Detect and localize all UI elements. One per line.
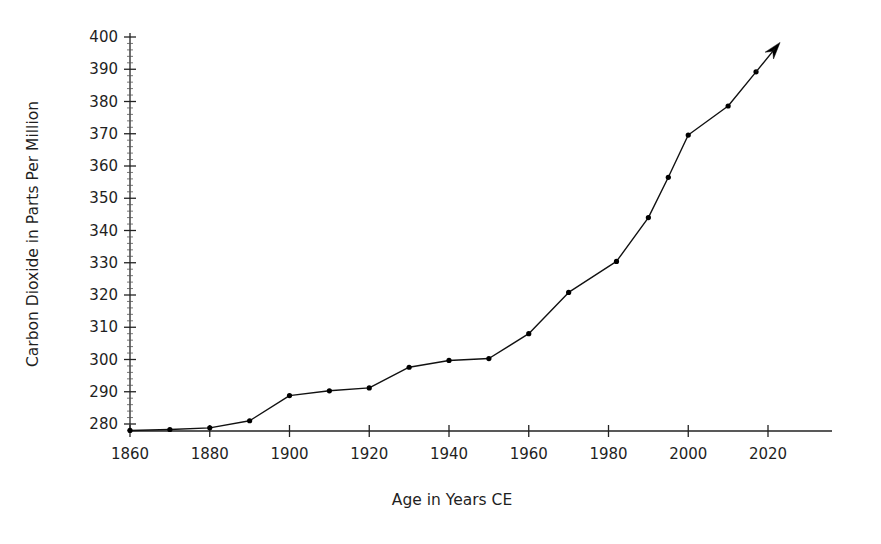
data-point	[646, 215, 651, 220]
x-tick-label-1980: 1980	[589, 445, 627, 463]
y-tick-label-280: 280	[89, 415, 118, 433]
x-tick-label-1940: 1940	[430, 445, 468, 463]
data-point	[566, 290, 571, 295]
y-tick-label-340: 340	[89, 222, 118, 240]
data-point	[726, 103, 731, 108]
y-tick-label-300: 300	[89, 351, 118, 369]
data-point	[327, 388, 332, 393]
y-tick-label-360: 360	[89, 157, 118, 175]
x-tick-label-2000: 2000	[669, 445, 707, 463]
y-tick-label-310: 310	[89, 318, 118, 336]
x-tick-label-2020: 2020	[749, 445, 787, 463]
y-tick-label-350: 350	[89, 189, 118, 207]
x-tick-label-1920: 1920	[350, 445, 388, 463]
y-tick-label-370: 370	[89, 125, 118, 143]
x-tick-label-1880: 1880	[191, 445, 229, 463]
x-axis-tick-labels: 186018801900192019401960198020002020	[111, 445, 787, 463]
y-axis-title: Carbon Dioxide in Parts Per Million	[24, 101, 42, 367]
data-point	[127, 428, 132, 433]
data-point	[207, 425, 212, 430]
data-point	[486, 356, 491, 361]
data-point	[526, 331, 531, 336]
data-point	[407, 365, 412, 370]
data-point	[247, 418, 252, 423]
y-tick-label-330: 330	[89, 254, 118, 272]
y-tick-label-400: 400	[89, 28, 118, 46]
y-tick-label-390: 390	[89, 60, 118, 78]
data-point	[367, 385, 372, 390]
x-tick-label-1900: 1900	[270, 445, 308, 463]
chart-canvas: 280290300310320330340350360370380390400 …	[0, 0, 881, 544]
y-tick-label-320: 320	[89, 286, 118, 304]
x-tick-label-1960: 1960	[510, 445, 548, 463]
y-tick-label-290: 290	[89, 383, 118, 401]
x-tick-label-1860: 1860	[111, 445, 149, 463]
data-point	[614, 259, 619, 264]
data-point	[686, 132, 691, 137]
co2-line-chart-figure: 280290300310320330340350360370380390400 …	[0, 0, 881, 544]
y-tick-label-380: 380	[89, 93, 118, 111]
data-point	[446, 358, 451, 363]
x-axis-title: Age in Years CE	[392, 491, 512, 509]
data-point	[167, 427, 172, 432]
data-point	[666, 175, 671, 180]
data-point	[287, 393, 292, 398]
